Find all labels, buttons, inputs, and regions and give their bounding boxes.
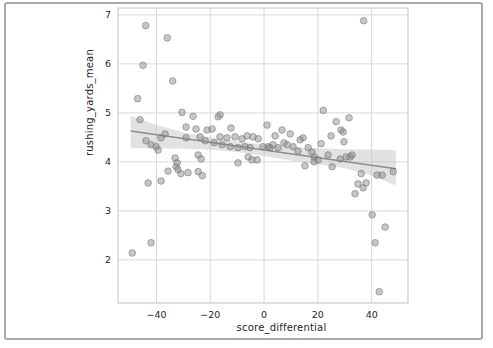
scatter-point [164, 35, 171, 42]
scatter-point [162, 131, 169, 138]
scatter-plot: −40−2002040234567 [0, 0, 493, 348]
scatter-point [215, 113, 222, 120]
scatter-point [379, 172, 386, 179]
y-tick-label: 7 [105, 9, 111, 20]
y-tick-label: 3 [105, 205, 111, 216]
y-tick-label: 6 [105, 58, 111, 69]
scatter-point [275, 144, 282, 151]
scatter-point [272, 133, 279, 140]
scatter-point [217, 134, 224, 141]
x-axis-label: score_differential [0, 322, 493, 333]
scatter-point [183, 135, 190, 142]
scatter-point [302, 162, 309, 169]
scatter-point [209, 126, 216, 133]
scatter-point [140, 62, 147, 69]
scatter-point [193, 126, 200, 133]
x-tick-label: −20 [200, 309, 220, 320]
x-tick-label: 0 [261, 309, 267, 320]
scatter-point [376, 288, 383, 295]
scatter-point [232, 134, 239, 141]
scatter-point [341, 138, 348, 145]
scatter-point [137, 116, 144, 123]
y-axis-label: rushing_yards_mean [84, 49, 95, 156]
scatter-point [185, 169, 192, 176]
scatter-point [174, 160, 181, 167]
scatter-point [169, 78, 176, 85]
scatter-point [235, 144, 242, 151]
scatter-point [244, 133, 251, 140]
scatter-point [328, 133, 335, 140]
scatter-point [227, 143, 234, 150]
scatter-point [318, 140, 325, 147]
scatter-point [183, 124, 190, 131]
scatter-point [372, 239, 379, 246]
scatter-point [358, 170, 365, 177]
scatter-point [224, 135, 231, 142]
scatter-point [145, 180, 152, 187]
scatter-point [255, 136, 262, 143]
scatter-point [219, 141, 226, 148]
scatter-point [228, 125, 235, 132]
screenshot-root: −40−2002040234567 score_differential rus… [0, 0, 493, 348]
scatter-point [325, 152, 332, 159]
scatter-point [202, 137, 209, 144]
scatter-point [320, 107, 327, 114]
scatter-point [333, 118, 340, 125]
x-tick-label: −40 [146, 309, 166, 320]
scatter-point [315, 157, 322, 164]
scatter-point [199, 172, 206, 179]
scatter-point [142, 22, 149, 29]
scatter-point [287, 131, 294, 138]
scatter-point [369, 211, 376, 218]
scatter-point [340, 129, 347, 136]
scatter-point [134, 95, 141, 102]
y-tick-label: 2 [105, 254, 111, 265]
scatter-point [300, 135, 307, 142]
scatter-point [360, 17, 367, 24]
y-tick-label: 5 [105, 107, 111, 118]
scatter-point [129, 250, 136, 257]
scatter-point [211, 139, 218, 146]
scatter-point [346, 114, 353, 121]
scatter-point [155, 147, 162, 154]
scatter-point [178, 170, 185, 177]
x-tick-label: 20 [312, 309, 324, 320]
y-tick-label: 4 [105, 156, 111, 167]
scatter-point [382, 224, 389, 231]
scatter-point [390, 168, 397, 175]
scatter-point [295, 148, 302, 155]
scatter-point [254, 157, 261, 164]
scatter-point [349, 152, 356, 159]
scatter-point [148, 239, 155, 246]
scatter-point [190, 113, 197, 120]
scatter-point [363, 180, 370, 187]
scatter-point [235, 160, 242, 167]
scatter-point [179, 109, 186, 116]
scatter-point [264, 122, 271, 129]
scatter-point [198, 156, 205, 163]
scatter-point [329, 163, 336, 170]
x-tick-label: 40 [366, 309, 378, 320]
scatter-point [165, 168, 172, 175]
scatter-point [279, 127, 286, 134]
scatter-point [352, 190, 359, 197]
scatter-point [247, 144, 254, 151]
scatter-point [158, 178, 165, 185]
